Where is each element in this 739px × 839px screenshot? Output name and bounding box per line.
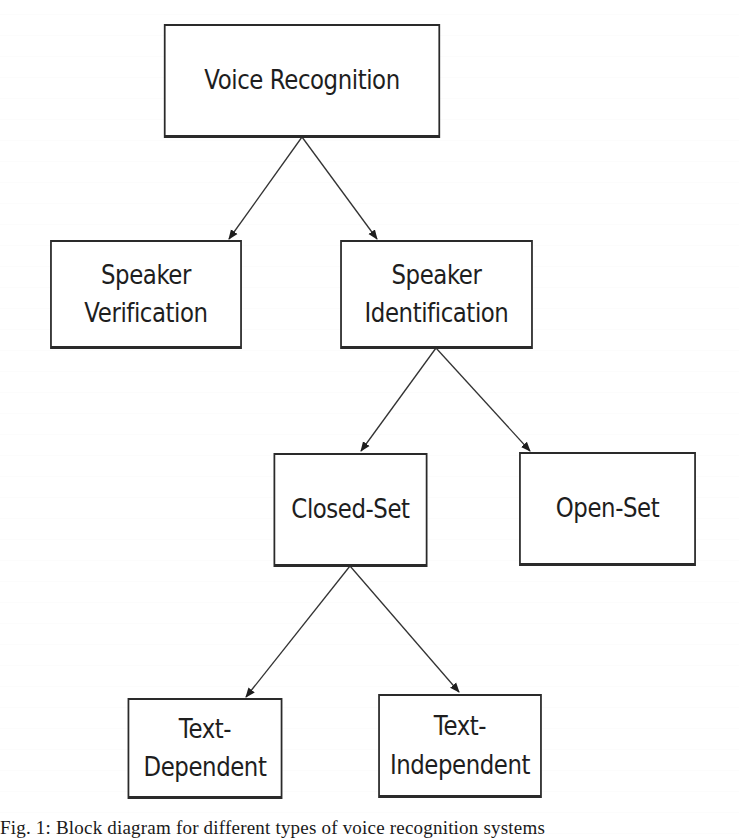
arrow-closedset-to-textdependent	[246, 566, 350, 697]
node-label: Closed-Set	[291, 490, 409, 528]
node-speaker-identification: Speaker Identification	[340, 240, 533, 349]
node-label: Speaker Identification	[365, 256, 509, 333]
node-open-set: Open-Set	[519, 452, 696, 566]
node-label: Voice Recognition	[204, 61, 399, 99]
arrow-voice-to-verification	[229, 137, 302, 239]
figure-caption: Fig. 1: Block diagram for different type…	[0, 817, 739, 839]
node-label: Text- Independent	[390, 707, 530, 784]
node-speaker-verification: Speaker Verification	[50, 240, 242, 349]
arrow-closedset-to-textindependent	[350, 566, 459, 692]
node-label: Open-Set	[556, 489, 659, 527]
arrow-voice-to-identification	[302, 137, 377, 239]
arrow-identification-to-closedset	[361, 348, 436, 451]
node-text-dependent: Text- Dependent	[128, 698, 283, 799]
arrow-identification-to-openset	[436, 348, 530, 451]
node-text-independent: Text- Independent	[378, 694, 542, 798]
node-closed-set: Closed-Set	[274, 453, 428, 567]
node-label: Text- Dependent	[144, 710, 267, 787]
node-voice-recognition: Voice Recognition	[164, 24, 440, 138]
node-label: Speaker Verification	[84, 256, 207, 333]
